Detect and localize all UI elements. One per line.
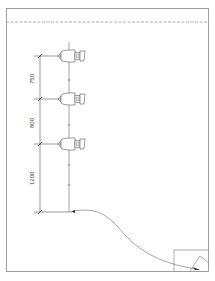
arrowhead-end <box>193 267 200 270</box>
arrowhead-start <box>71 210 75 213</box>
dim-label-800: 800 <box>29 117 35 128</box>
dim-label-1200: 1200 <box>29 171 35 185</box>
sheet-border <box>7 9 209 272</box>
technical-drawing: 750 800 1200 <box>0 0 215 281</box>
fixture-1 <box>58 50 85 62</box>
fixture-3 <box>58 138 85 150</box>
fixture-2 <box>58 93 85 105</box>
corner-detail <box>174 250 209 271</box>
curved-leader <box>73 210 196 269</box>
dim-label-750: 750 <box>29 73 35 84</box>
